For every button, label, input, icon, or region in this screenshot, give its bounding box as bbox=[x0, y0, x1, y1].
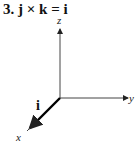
z-axis-label: z bbox=[56, 14, 62, 26]
i-vector-label: i bbox=[36, 98, 40, 113]
x-axis-label: x bbox=[15, 131, 21, 143]
axes-diagram: z y x i bbox=[0, 0, 136, 150]
i-vector bbox=[30, 98, 60, 128]
x-axis bbox=[27, 128, 30, 131]
y-axis-label: y bbox=[128, 92, 134, 104]
